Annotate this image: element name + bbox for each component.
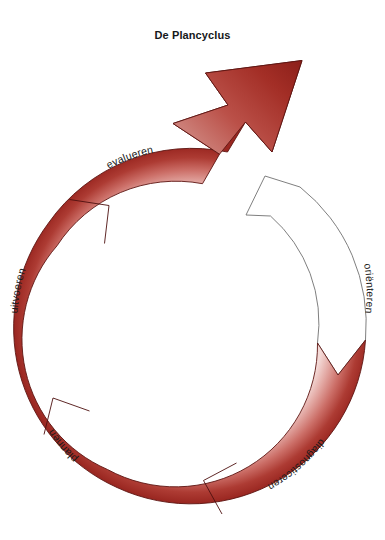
segment-plannen-label: plannen	[45, 427, 79, 465]
segment-orienteren-band	[246, 176, 366, 375]
segment-orienteren-label-text: oriënteren	[362, 262, 377, 314]
evalueren-arrowhead-shape	[173, 61, 302, 155]
cycle-diagram: oriënteren evalueren uitvoeren	[0, 0, 385, 540]
segment-orienteren-label: oriënteren	[362, 262, 377, 314]
plancyclus-diagram-page: De Plancyclus	[0, 0, 385, 540]
segment-orienteren[interactable]: oriënteren	[246, 176, 377, 375]
segment-plannen-label-text: plannen	[45, 427, 79, 465]
evalueren-arrowhead	[173, 61, 302, 155]
